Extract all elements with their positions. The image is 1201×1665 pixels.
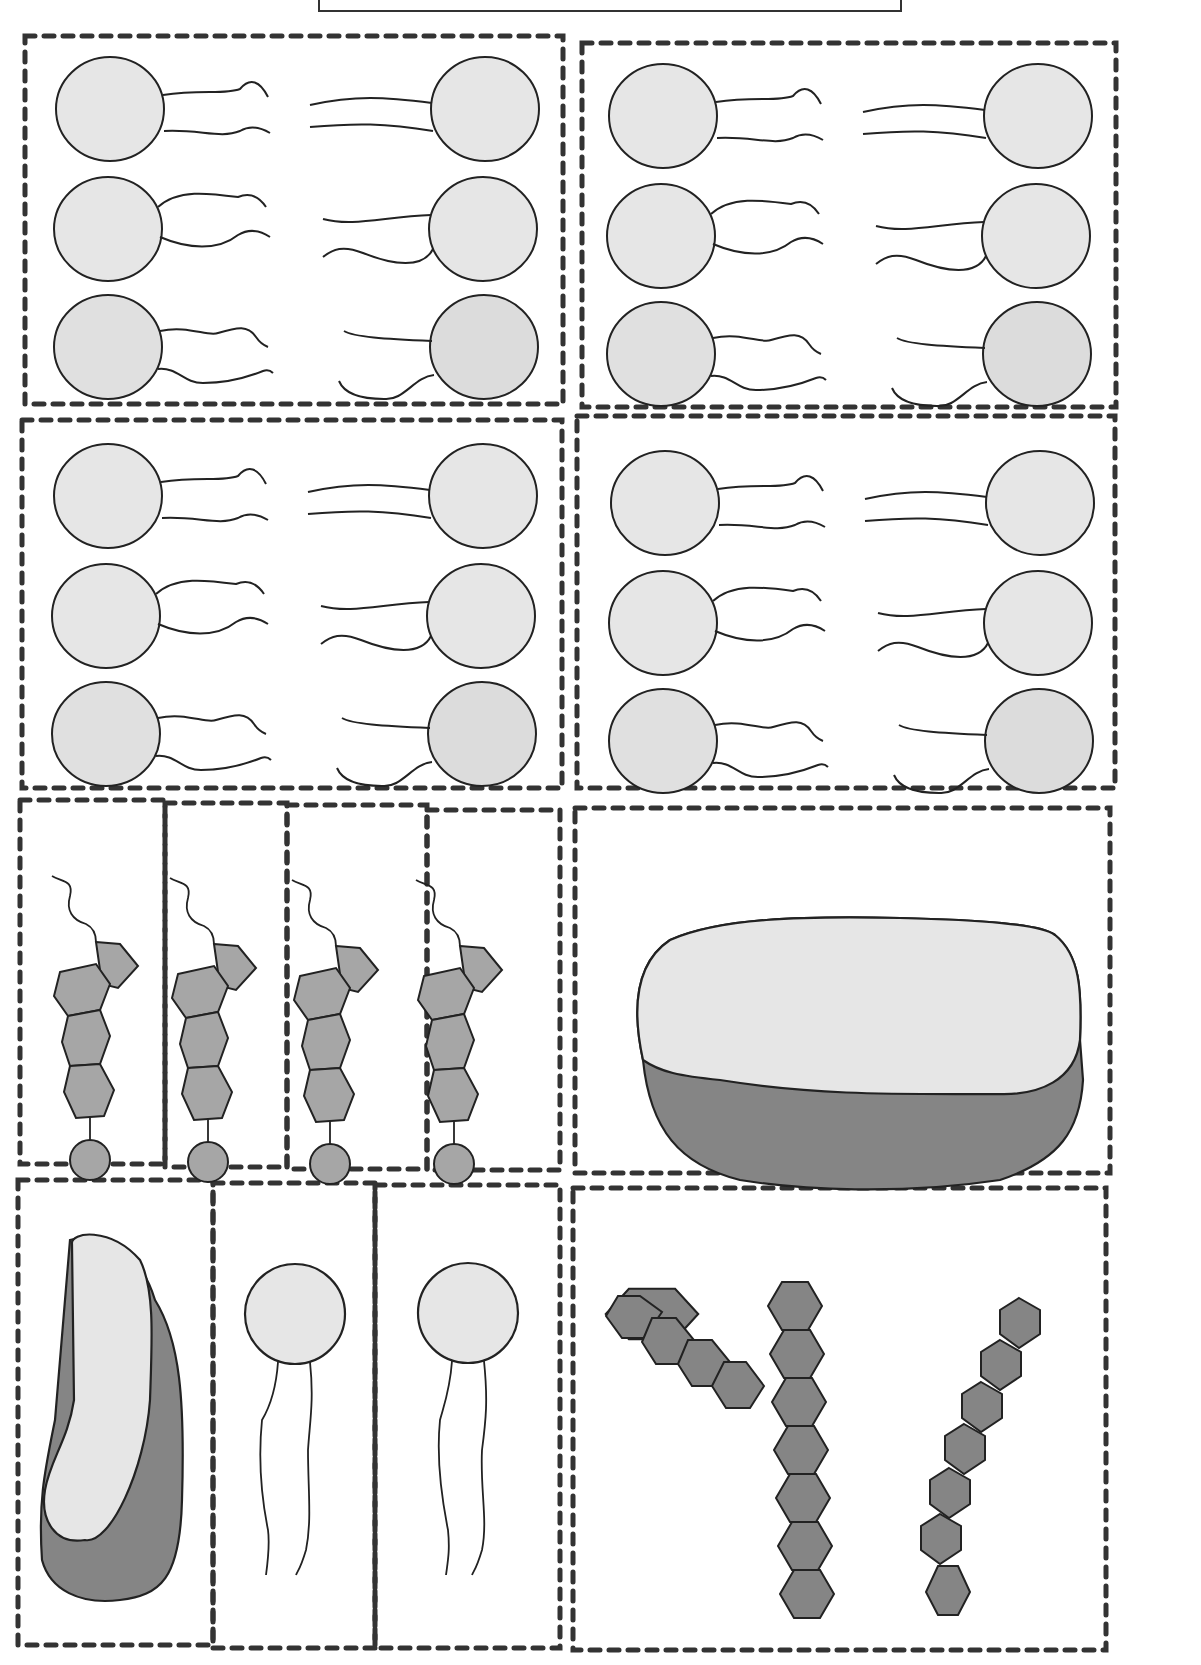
panel-carbohydrates (573, 1188, 1106, 1650)
phospholipid-bilayer-4 (609, 451, 1094, 793)
single-phospholipid-1 (245, 1264, 345, 1575)
phospholipid-bilayer-3 (52, 444, 537, 786)
cholesterol-1 (52, 876, 138, 1180)
single-phospholipid-2 (418, 1263, 518, 1575)
panel-phospholipid-1 (213, 1183, 375, 1648)
cholesterol-3 (292, 880, 378, 1184)
phospholipid-bilayer-2 (607, 64, 1092, 406)
carbohydrate-branched-chain (606, 1282, 834, 1618)
panel-phospholipid-2 (375, 1185, 560, 1648)
phospholipid-bilayer-1 (54, 57, 539, 399)
peripheral-protein (41, 1235, 183, 1601)
integral-protein-large (637, 917, 1083, 1189)
membrane-cutout-worksheet (0, 0, 1201, 1665)
cholesterol-2 (170, 878, 256, 1182)
carbohydrate-linear-chain (921, 1298, 1040, 1615)
cut-lines (18, 36, 1116, 1650)
